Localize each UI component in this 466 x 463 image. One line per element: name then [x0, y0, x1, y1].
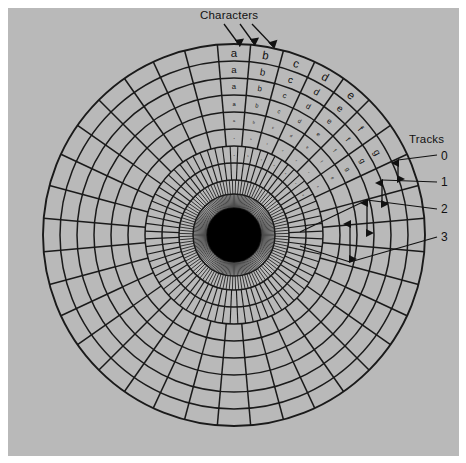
track-number-0: 0: [441, 150, 448, 162]
character-cell: a: [231, 47, 238, 59]
characters-label: Characters: [200, 10, 258, 22]
character-cell: a: [232, 82, 237, 91]
tracks-label: Tracks: [409, 134, 444, 146]
track-number-2: 2: [441, 203, 448, 215]
track-number-1: 1: [441, 176, 448, 188]
track-number-3: 3: [441, 231, 448, 243]
disk-track-diagram: abcdeabcdefgabcdefgabcdefgabcdefgabcdefg…: [0, 0, 466, 463]
character-cell: a: [231, 64, 237, 75]
diagram-canvas: abcdeabcdefgabcdefgabcdefgabcdefgabcdefg…: [0, 0, 466, 463]
